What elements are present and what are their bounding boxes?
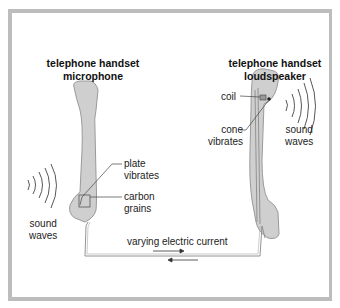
- loudspeaker-handset: [250, 69, 279, 239]
- carbon-label-line2: grains: [124, 203, 155, 215]
- loudspeaker-title-line2: loudspeaker: [220, 70, 330, 83]
- cone-dot: [267, 97, 271, 101]
- microphone-handset: [70, 81, 98, 222]
- microphone-sound-waves-label: sound waves: [29, 218, 57, 242]
- cone-label-line2: vibrates: [207, 136, 243, 148]
- loudspeaker-title: telephone handset loudspeaker: [220, 57, 330, 83]
- circuit-label: varying electric current: [127, 236, 228, 248]
- mic-sound-line1: sound: [29, 218, 57, 230]
- microphone-sound-waves: [28, 164, 57, 208]
- spk-sound-line2: waves: [285, 136, 313, 148]
- loudspeaker-sound-waves-label: sound waves: [285, 124, 313, 148]
- coil-label: coil: [221, 91, 236, 103]
- coil-box: [260, 95, 266, 100]
- diagram-graphics: [0, 0, 340, 308]
- microphone-title: telephone handset microphone: [38, 57, 148, 83]
- current-arrow-right: [153, 249, 184, 253]
- cone-vibrates-label: cone vibrates: [221, 124, 243, 148]
- carbon-label-line1: carbon: [124, 191, 155, 203]
- plate-label-line2: vibrates: [124, 170, 159, 182]
- carbon-grains-label: carbon grains: [124, 191, 155, 215]
- current-arrow-left: [168, 258, 198, 262]
- microphone-title-line1: telephone handset: [38, 57, 148, 70]
- mic-sound-line2: waves: [29, 230, 57, 242]
- loudspeaker-title-line1: telephone handset: [220, 57, 330, 70]
- microphone-title-line2: microphone: [38, 70, 148, 83]
- cone-label-line1: cone: [221, 124, 243, 136]
- spk-sound-line1: sound: [285, 124, 313, 136]
- plate-vibrates-label: plate vibrates: [124, 158, 159, 182]
- plate-label-line1: plate: [124, 158, 159, 170]
